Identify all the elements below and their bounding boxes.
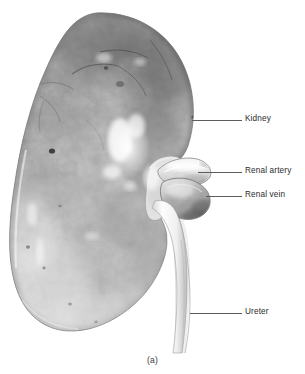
leader-line-icon: [192, 120, 242, 121]
figure-kidney-gross-specimen: Kidney Renal artery Renal vein Ureter (a…: [0, 0, 305, 374]
leader-line-icon: [190, 313, 242, 314]
figure-caption: (a): [0, 355, 305, 365]
label-ureter: Ureter: [245, 307, 269, 317]
kidney-photograph: [0, 0, 305, 374]
label-kidney: Kidney: [245, 114, 271, 124]
leader-line-icon: [206, 196, 242, 197]
label-renal-artery: Renal artery: [245, 166, 291, 176]
label-renal-vein: Renal vein: [245, 190, 285, 200]
leader-line-icon: [198, 172, 242, 173]
